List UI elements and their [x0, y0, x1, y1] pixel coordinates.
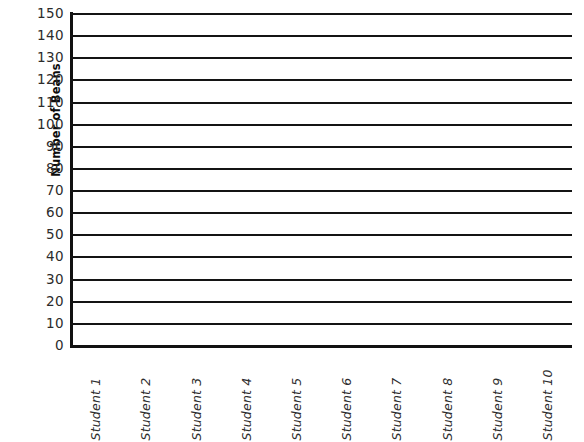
x-axis-tick-label: Student 6 — [339, 349, 354, 441]
y-axis-tick-label: 20 — [18, 294, 64, 308]
y-axis-tick-label: 70 — [18, 183, 64, 197]
y-axis-tick-label: 100 — [18, 117, 64, 131]
x-axis-tick: Student 6 — [338, 349, 354, 442]
x-axis-tick: Student 8 — [439, 349, 455, 442]
x-axis-tick-label: Student 9 — [489, 349, 504, 441]
y-axis-tick-label: 30 — [18, 272, 64, 286]
x-axis-tick-label: Student 8 — [439, 349, 454, 441]
x-axis-tick-label: Student 10 — [539, 349, 554, 441]
gridline — [70, 79, 572, 81]
gridline — [70, 190, 572, 192]
x-axis-tick: Student 1 — [87, 349, 103, 442]
y-axis-tick-label: 140 — [18, 28, 64, 42]
x-axis-tick-label: Student 3 — [188, 349, 203, 441]
gridline — [70, 234, 572, 236]
y-axis-tick-label: 130 — [18, 50, 64, 64]
y-axis-tick-label: 40 — [18, 249, 64, 263]
y-axis-tick-label: 50 — [18, 227, 64, 241]
x-axis-tick-label: Student 7 — [389, 349, 404, 441]
gridline — [70, 102, 572, 104]
x-axis-tick: Student 5 — [288, 349, 304, 442]
gridline — [70, 57, 572, 59]
x-axis-tick: Student 9 — [489, 349, 505, 442]
x-axis-tick-label: Student 2 — [138, 349, 153, 441]
gridline — [70, 301, 572, 303]
x-axis-tick-label-group: Student 1Student 2Student 3Student 4Stud… — [70, 349, 584, 442]
gridline — [70, 124, 572, 126]
y-axis-tick-label-group: 1501401301201101009080706050403020100 — [18, 0, 64, 360]
x-axis-tick: Student 3 — [188, 349, 204, 442]
x-axis-tick-label: Student 5 — [288, 349, 303, 441]
x-axis-tick: Student 4 — [238, 349, 254, 442]
gridline — [70, 323, 572, 325]
gridline — [70, 168, 572, 170]
y-axis-tick-label: 150 — [18, 6, 64, 20]
gridline — [70, 146, 572, 148]
x-axis-tick-label: Student 4 — [238, 349, 253, 441]
x-axis-tick: Student 7 — [388, 349, 404, 442]
y-axis-line — [70, 12, 73, 348]
y-axis-tick-label: 60 — [18, 205, 64, 219]
y-axis-tick-label: 110 — [18, 95, 64, 109]
x-axis-tick-label: Student 1 — [88, 349, 103, 441]
gridline — [70, 35, 572, 37]
bar-chart-worksheet: Number of Beans 150140130120110100908070… — [0, 0, 584, 442]
gridline — [70, 212, 572, 214]
gridline — [70, 279, 572, 281]
y-axis-tick-label: 120 — [18, 72, 64, 86]
y-axis-tick-label: 80 — [18, 161, 64, 175]
plot-area — [70, 14, 572, 346]
gridline — [70, 256, 572, 258]
gridline — [70, 13, 572, 15]
y-axis-tick-label: 0 — [18, 338, 64, 352]
y-axis-tick-label: 10 — [18, 316, 64, 330]
x-axis-tick: Student 2 — [137, 349, 153, 442]
x-axis-tick: Student 10 — [539, 349, 555, 442]
y-axis-tick-label: 90 — [18, 139, 64, 153]
